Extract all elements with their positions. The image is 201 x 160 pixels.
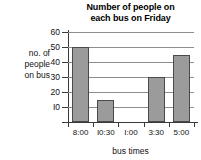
gridline <box>68 32 194 33</box>
x-axis-label: bus times <box>60 146 201 156</box>
y-axis-tick-label: 40 <box>40 58 60 66</box>
y-axis-tick-label: 20 <box>40 88 60 96</box>
y-axis-tick <box>62 62 68 63</box>
plot-area: I020304050608:00I0:30I:003:305:00 <box>68 32 194 122</box>
y-axis-tick <box>62 32 68 33</box>
bar <box>72 47 89 122</box>
chart-title-line-2: each bus on Friday <box>60 13 201 24</box>
x-axis-tick <box>93 122 94 127</box>
bar-chart: Number of people on each bus on Friday n… <box>0 0 201 160</box>
y-axis-tick <box>62 107 68 108</box>
y-axis-tick-label: 60 <box>40 28 60 36</box>
chart-title-line-1: Number of people on <box>60 2 201 13</box>
x-axis-tick <box>118 122 119 127</box>
x-axis-line <box>62 122 198 123</box>
y-axis-tick-label: 50 <box>40 43 60 51</box>
chart-title: Number of people on each bus on Friday <box>60 2 201 24</box>
y-axis-tick <box>62 92 68 93</box>
bar <box>173 55 190 123</box>
x-axis-tick <box>169 122 170 127</box>
x-axis-tick <box>68 122 69 127</box>
bar <box>148 77 165 122</box>
x-axis-tick-label: 5:00 <box>164 128 198 137</box>
y-axis-tick-label: I0 <box>40 103 60 111</box>
y-axis-tick <box>62 77 68 78</box>
y-axis-tick <box>62 47 68 48</box>
x-axis-tick <box>194 122 195 127</box>
y-axis-tick-label: 30 <box>40 73 60 81</box>
bar <box>97 100 114 123</box>
x-axis-tick <box>144 122 145 127</box>
